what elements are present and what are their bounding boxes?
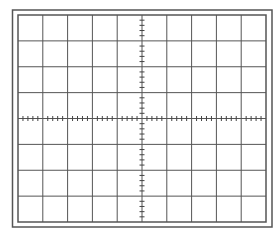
oscilloscope-graticule xyxy=(0,0,279,234)
